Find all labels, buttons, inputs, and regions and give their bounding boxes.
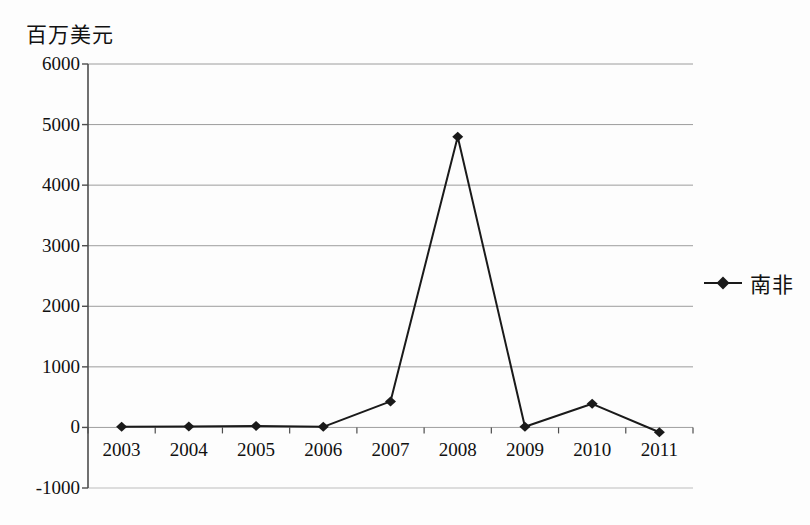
legend: 南非 — [703, 268, 794, 298]
chart-container: 百万美元 -10000100020003000400050006000 2003… — [0, 0, 810, 525]
diamond-marker-icon — [703, 274, 743, 292]
x-axis-label: 2011 — [619, 440, 699, 459]
legend-item-label: 南非 — [750, 268, 794, 298]
x-axis-tick-labels: 200320042005200620072008200920102011 — [0, 0, 810, 525]
